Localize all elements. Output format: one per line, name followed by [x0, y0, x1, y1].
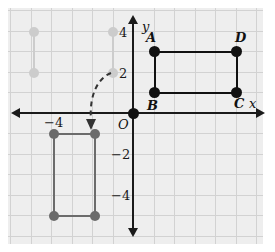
rotation-arrowhead-icon — [86, 119, 96, 130]
coordinate-plane-figure: y x O 4 2 −2 −4 −4 A D B C — [0, 0, 275, 252]
rotation-arrow-overlay — [0, 0, 275, 252]
rotation-arrow-path — [91, 73, 111, 120]
